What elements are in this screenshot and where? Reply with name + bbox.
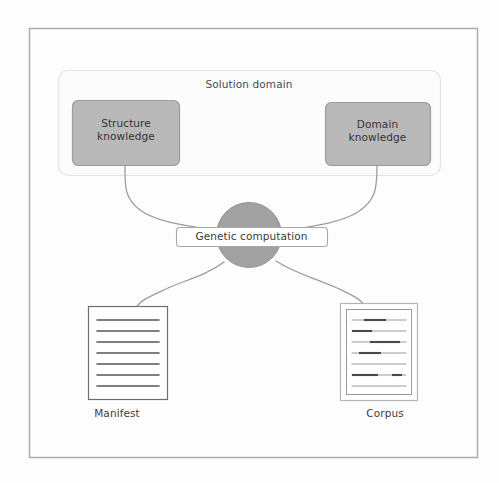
genetic-computation-label: Genetic computation — [176, 230, 327, 243]
manifest-document[interactable] — [89, 307, 168, 400]
edge-genetic-to-corpus — [276, 261, 366, 309]
structure-knowledge-label: Structure knowledge — [72, 117, 180, 144]
edge-genetic-to-manifest — [136, 262, 224, 308]
corpus-label: Corpus — [335, 407, 435, 420]
manifest-label: Manifest — [62, 407, 172, 420]
domain-knowledge-label: Domain knowledge — [325, 118, 430, 145]
solution-domain-label: Solution domain — [58, 78, 440, 91]
diagram-canvas: Solution domain Structure knowledge Doma… — [0, 0, 499, 483]
corpus-document[interactable] — [341, 304, 418, 401]
